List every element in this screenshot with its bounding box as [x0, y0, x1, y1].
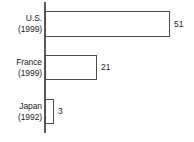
category-year: (1999): [0, 24, 42, 35]
category-label-france: France (1999): [0, 57, 42, 78]
bar-value-france: 21: [101, 63, 110, 72]
category-year: (1999): [0, 68, 42, 79]
bar-us: [45, 11, 170, 37]
category-name: Japan: [0, 101, 42, 112]
bar-japan: [45, 99, 54, 124]
bar-value-japan: 3: [58, 107, 63, 116]
category-name: France: [0, 57, 42, 68]
bar-chart: U.S. (1999) 51 France (1999) 21 Japan (1…: [0, 0, 194, 142]
category-label-japan: Japan (1992): [0, 101, 42, 122]
category-label-us: U.S. (1999): [0, 13, 42, 34]
category-year: (1992): [0, 112, 42, 123]
category-name: U.S.: [0, 13, 42, 24]
bar-france: [45, 55, 97, 80]
bar-value-us: 51: [174, 20, 183, 29]
